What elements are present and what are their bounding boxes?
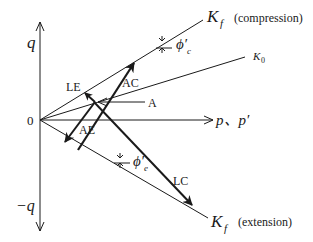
label-le: LE (66, 80, 81, 94)
phi-e-symbol: ϕ′ (133, 153, 145, 169)
negative-q-axis-label: −q (16, 197, 35, 215)
kf-compression-symbol: K (206, 7, 220, 26)
q-axis-label: q (27, 33, 36, 52)
path-le-arrow (85, 93, 95, 102)
kf-extension-subscript: f (224, 222, 229, 234)
label-a: A (148, 96, 157, 110)
label-ae: AE (79, 123, 95, 137)
label-lc: LC (173, 174, 188, 188)
p-axis-label: p、p′ (215, 112, 250, 128)
kf-compression-note: (compression) (234, 11, 303, 25)
angle-marker-extension (114, 153, 130, 168)
origin-label: 0 (27, 113, 34, 128)
k0-symbol: K (252, 50, 261, 62)
phi-c-subscript: c (187, 46, 191, 56)
k0-subscript: 0 (261, 56, 265, 65)
kf-extension-note: (extension) (238, 215, 292, 229)
label-ac: AC (122, 76, 139, 90)
kf-compression-subscript: f (220, 17, 225, 29)
phi-c-symbol: ϕ′ (176, 36, 188, 52)
phi-e-subscript: e (144, 163, 148, 173)
kf-compression-line (40, 20, 203, 120)
kf-extension-symbol: K (210, 212, 224, 231)
stress-path-diagram: q −q 0 p、p′ K f (compression) K 0 K f (e… (0, 0, 313, 242)
